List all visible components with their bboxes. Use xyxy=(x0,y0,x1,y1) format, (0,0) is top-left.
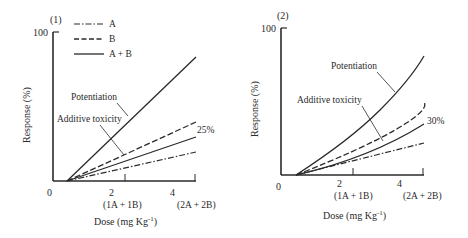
panel-1-b-line xyxy=(67,122,196,181)
panel-1-x-sublabel-4: (2A + 2B) xyxy=(177,200,216,211)
panel-1-y-axis-title: Response (%) xyxy=(21,87,33,143)
panel-1: (1) 100 0 2 4 (1A + 1B) (2A + 2B) Respon… xyxy=(21,14,216,228)
panel-2-potentiation-annotation: Potentiation xyxy=(331,61,377,71)
panel-1-x-sublabel-2: (1A + 1B) xyxy=(103,200,142,211)
panel-1-a-line xyxy=(67,152,196,181)
panel-1-x-axis-title: Dose (mg Kg-1) xyxy=(94,215,157,228)
panel-2-x-sublabel-2: (1A + 1B) xyxy=(334,191,373,202)
panel-2-x-label-2: 2 xyxy=(337,178,342,189)
panel-1-additive-annotation: Additive toxicity xyxy=(57,114,122,124)
panel-1-pct-annotation: 25% xyxy=(197,125,215,135)
legend-b-label: B xyxy=(109,34,115,44)
panel-2-x-axis-title: Dose (mg Kg-1) xyxy=(323,209,386,222)
panel-1-legend: A B A + B xyxy=(74,19,132,59)
panel-2-y-axis-title: Response (%) xyxy=(249,81,261,137)
panel-1-x-label-4: 4 xyxy=(170,187,175,198)
panel-2-y-top-label: 100 xyxy=(261,23,276,34)
panel-1-zero-label: 0 xyxy=(47,187,52,198)
legend-a-label: A xyxy=(109,19,116,29)
panel-2-pct-annotation: 30% xyxy=(427,116,445,126)
panel-1-potentiation-annotation: Potentiation xyxy=(71,92,117,102)
panel-2-potentiation-line xyxy=(296,56,424,175)
panel-1-additive-line xyxy=(67,137,196,181)
panel-2-x-sublabel-4: (2A + 2B) xyxy=(403,191,442,202)
panel-2-additive-annotation: Additive toxicity xyxy=(297,95,362,105)
panel-1-label: (1) xyxy=(50,14,62,26)
panel-2-zero-label: 0 xyxy=(276,181,281,192)
figure: (1) 100 0 2 4 (1A + 1B) (2A + 2B) Respon… xyxy=(0,0,468,238)
panel-2-label: (2) xyxy=(277,10,289,22)
panel-2-x-label-4: 4 xyxy=(397,178,402,189)
panel-2-b-line xyxy=(296,102,425,175)
panel-1-y-top-label: 100 xyxy=(33,27,48,38)
legend-ab-label: A + B xyxy=(109,49,132,59)
panel-2: (2) 100 0 2 4 (1A + 1B) (2A + 2B) Respon… xyxy=(249,10,445,222)
panel-1-x-label-2: 2 xyxy=(109,187,114,198)
panel-2-potentiation-leader xyxy=(377,72,395,92)
